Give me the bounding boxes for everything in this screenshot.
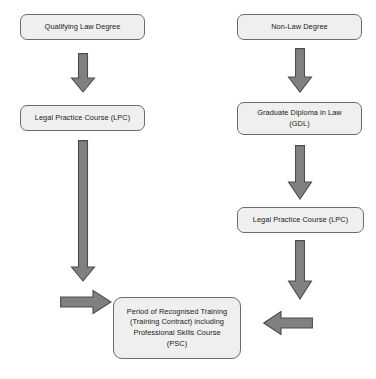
arrow-right-into-training	[263, 310, 313, 336]
node-qualifying-law-degree[interactable]: Qualifying Law Degree	[20, 14, 145, 40]
node-period-of-recognised-training[interactable]: Period of Recognised Training (Training …	[113, 297, 241, 359]
node-lpc-right-lines: Legal Practice Course (LPC)	[242, 215, 359, 226]
arrow-gdl-to-lpc-right	[285, 145, 315, 200]
flowchart-canvas: Qualifying Law Degree Legal Practice Cou…	[0, 0, 376, 379]
node-line: Period of Recognised Training	[118, 307, 236, 318]
node-line: Legal Practice Course (LPC)	[242, 215, 359, 226]
node-non-law-degree[interactable]: Non-Law Degree	[237, 14, 362, 40]
arrow-nonlaw-to-gdl	[285, 48, 315, 93]
node-line: (Training Contract) including	[118, 317, 236, 328]
node-line: Graduate Diploma in Law	[242, 108, 357, 119]
node-training-lines: Period of Recognised Training (Training …	[118, 307, 236, 349]
node-gdl-lines: Graduate Diploma in Law (GDL)	[242, 108, 357, 129]
node-line: Legal Practice Course (LPC)	[25, 113, 140, 124]
node-line: Professional Skills Course	[118, 328, 236, 339]
node-non-law-degree-lines: Non-Law Degree	[242, 22, 357, 33]
node-lpc-left[interactable]: Legal Practice Course (LPC)	[20, 105, 145, 131]
node-line: (PSC)	[118, 339, 236, 350]
arrow-left-into-training	[60, 289, 112, 315]
arrow-lpc-right-to-training	[285, 240, 315, 300]
node-lpc-right[interactable]: Legal Practice Course (LPC)	[237, 207, 364, 233]
node-line: (GDL)	[242, 119, 357, 130]
arrow-lpc-left-to-training	[68, 140, 98, 282]
node-line: Non-Law Degree	[242, 22, 357, 33]
node-line: Qualifying Law Degree	[25, 22, 140, 33]
arrow-qld-to-lpc	[68, 53, 98, 93]
node-qualifying-law-degree-lines: Qualifying Law Degree	[25, 22, 140, 33]
node-lpc-left-lines: Legal Practice Course (LPC)	[25, 113, 140, 124]
node-gdl[interactable]: Graduate Diploma in Law (GDL)	[237, 102, 362, 135]
